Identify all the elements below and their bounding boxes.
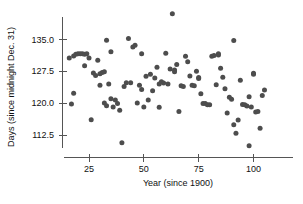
data-point: [212, 53, 217, 58]
data-point: [93, 73, 98, 78]
data-point: [236, 118, 241, 123]
data-point: [106, 81, 111, 86]
data-point: [251, 72, 256, 77]
data-point: [165, 81, 170, 86]
y-tick-label: 112.5: [32, 130, 54, 140]
data-point: [139, 87, 144, 92]
y-axis-ticks: 112.5120.0127.5135.0: [31, 35, 66, 141]
data-point: [119, 140, 124, 145]
data-point: [71, 91, 76, 96]
data-point: [108, 96, 113, 101]
chart-canvas: 112.5120.0127.5135.0 255075100 Year (sin…: [0, 0, 303, 204]
y-tick-label: 120.0: [31, 98, 54, 108]
data-point: [225, 110, 230, 115]
x-tick-label: 100: [246, 164, 261, 174]
data-point: [126, 36, 131, 41]
data-point: [185, 59, 190, 64]
data-point: [141, 104, 146, 109]
data-point: [255, 109, 260, 114]
data-point: [181, 84, 186, 89]
data-point: [157, 105, 162, 110]
data-point: [183, 54, 188, 59]
data-point: [233, 131, 238, 136]
data-point: [67, 56, 72, 61]
x-axis-title: Year (since 1900): [143, 178, 213, 188]
data-points-layer: [67, 11, 267, 148]
scatter-plot-figure: 112.5120.0127.5135.0 255075100 Year (sin…: [0, 0, 303, 204]
data-point: [152, 76, 157, 81]
data-point: [238, 78, 243, 83]
data-point: [95, 58, 100, 63]
data-point: [87, 56, 92, 61]
data-point: [198, 91, 203, 96]
data-point: [258, 126, 263, 131]
y-tick-label: 135.0: [31, 35, 54, 45]
data-point: [139, 51, 144, 56]
y-tick-label: 127.5: [31, 66, 54, 76]
data-point: [174, 62, 179, 67]
data-point: [196, 76, 201, 81]
x-tick-label: 25: [84, 164, 94, 174]
data-point: [102, 69, 107, 74]
data-point: [262, 87, 267, 92]
data-point: [172, 69, 177, 74]
y-axis-title: Days (since midnight Dec. 31): [6, 27, 16, 147]
data-point: [135, 101, 140, 106]
data-point: [117, 108, 122, 113]
data-point: [89, 117, 94, 122]
data-point: [247, 94, 252, 99]
data-point: [194, 69, 199, 74]
data-point: [168, 67, 173, 72]
data-point: [170, 11, 175, 16]
data-point: [108, 49, 113, 54]
data-point: [148, 72, 153, 77]
data-point: [244, 104, 249, 109]
data-point: [150, 88, 155, 93]
data-point: [124, 80, 129, 85]
data-point: [146, 98, 151, 103]
data-point: [222, 86, 227, 91]
data-point: [128, 80, 133, 85]
data-point: [161, 81, 166, 86]
data-point: [247, 143, 252, 148]
data-point: [137, 83, 142, 88]
data-point: [207, 102, 212, 107]
data-point: [154, 65, 159, 70]
data-point: [97, 83, 102, 88]
data-point: [82, 63, 87, 68]
data-point: [214, 82, 219, 87]
data-point: [192, 83, 197, 88]
data-point: [84, 51, 89, 56]
x-tick-label: 50: [139, 164, 149, 174]
data-point: [231, 38, 236, 43]
data-point: [115, 101, 120, 106]
data-point: [229, 97, 234, 102]
x-axis-ticks: 255075100: [84, 154, 261, 175]
data-point: [176, 109, 181, 114]
data-point: [218, 66, 223, 71]
data-point: [104, 38, 109, 43]
data-point: [260, 93, 265, 98]
data-point: [231, 122, 236, 127]
x-tick-label: 75: [194, 164, 204, 174]
data-point: [133, 43, 138, 48]
data-point: [163, 51, 168, 56]
data-point: [69, 101, 74, 106]
data-point: [104, 103, 109, 108]
data-point: [220, 75, 225, 80]
data-point: [187, 73, 192, 78]
data-point: [249, 104, 254, 109]
data-point: [216, 51, 221, 56]
data-point: [111, 104, 116, 109]
data-point: [144, 74, 149, 79]
